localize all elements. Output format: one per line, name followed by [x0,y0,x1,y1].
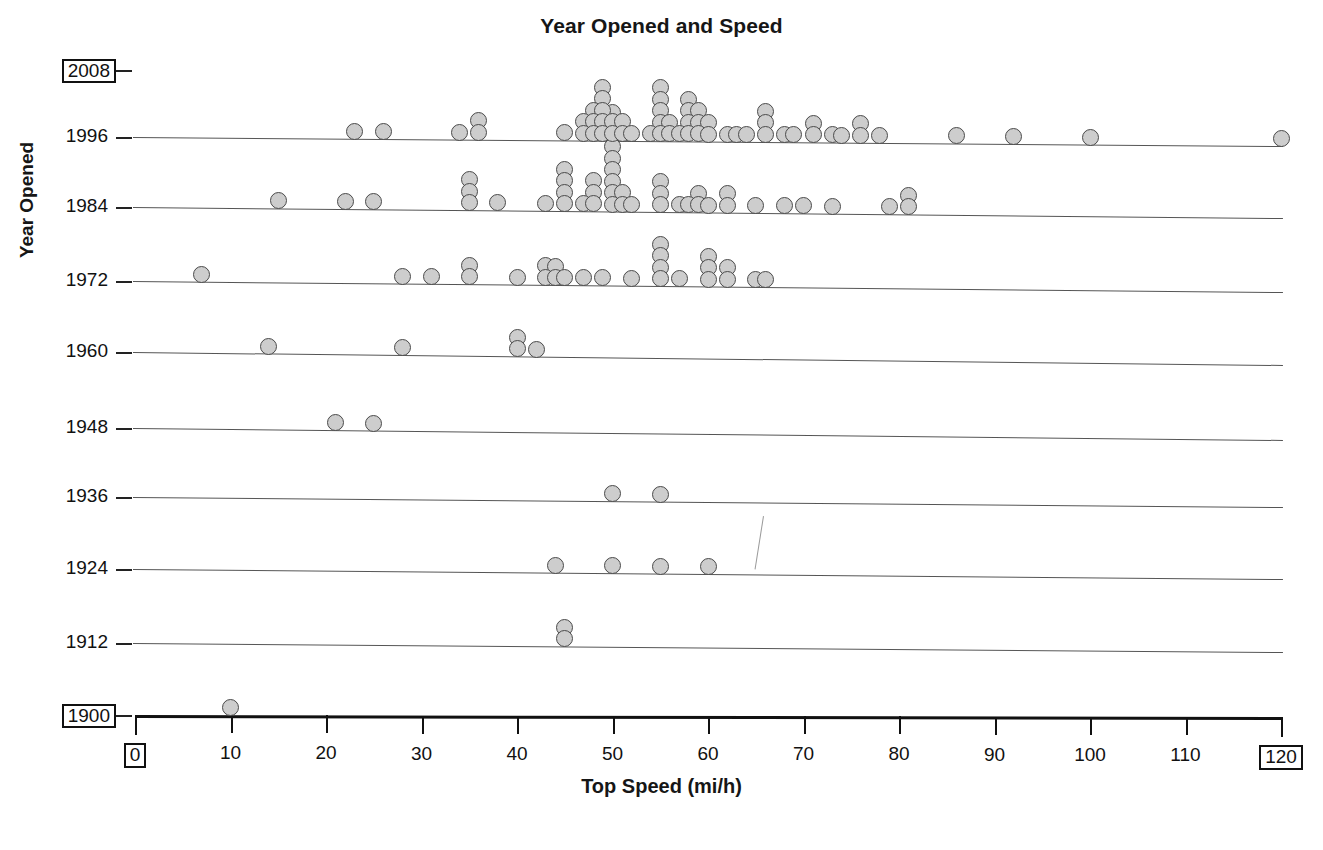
data-point [346,123,363,140]
data-point [719,271,736,288]
y-tick-mark-1924 [116,569,132,571]
data-point [871,127,888,144]
data-point [260,338,277,355]
y-tick-mark-2008 [116,70,132,72]
x-tick-text: 0 [124,743,147,768]
data-point [700,197,717,214]
x-tick-label-30: 30 [387,744,457,764]
x-tick-label-10: 10 [196,743,266,763]
x-tick-mark-30 [422,716,424,734]
x-tick-label-0[interactable]: 0 [100,743,170,768]
x-tick-mark-90 [995,717,997,735]
data-point [652,558,669,575]
x-tick-text: 90 [984,744,1005,765]
data-point [394,268,411,285]
y-tick-text: 2008 [62,59,116,83]
y-tick-label-1960: 1960 [12,341,108,360]
data-point [833,127,850,144]
data-point [795,197,812,214]
x-tick-mark-60 [708,716,710,734]
data-point [719,197,736,214]
y-tick-label-1996: 1996 [12,126,108,145]
x-tick-text: 80 [888,743,909,764]
y-tick-text: 1936 [66,485,108,506]
data-point [509,269,526,286]
x-tick-text: 120 [1259,745,1303,770]
data-point [824,198,841,215]
x-tick-label-120[interactable]: 120 [1246,745,1316,770]
data-point [1082,129,1099,146]
x-tick-mark-100 [1090,717,1092,735]
x-tick-mark-10 [231,715,233,733]
data-point [623,196,640,213]
row-baseline-1912 [133,643,1283,653]
x-axis-end-cap-right [1281,717,1283,737]
data-point [461,194,478,211]
y-tick-label-1972: 1972 [12,270,108,289]
x-tick-mark-20 [326,715,328,733]
data-point [547,557,564,574]
y-tick-mark-1936 [116,497,132,499]
x-tick-label-50: 50 [578,744,648,764]
y-tick-mark-1984 [116,207,132,209]
y-tick-mark-1912 [116,643,132,645]
y-tick-text: 1948 [66,416,108,437]
data-point [757,271,774,288]
y-tick-text: 1900 [62,704,116,728]
data-point [652,486,669,503]
data-point [327,414,344,431]
x-tick-text: 40 [506,743,527,764]
data-point [738,126,755,143]
chart-canvas: Year Opened and Speed Year Opened Top Sp… [0,0,1323,850]
y-tick-label-2008[interactable]: 2008 [20,59,116,83]
y-tick-mark-1900 [116,715,132,717]
x-axis-title: Top Speed (mi/h) [0,775,1323,798]
data-point [193,266,210,283]
y-tick-mark-1948 [116,428,132,430]
row-baseline-1948 [133,428,1283,441]
data-point [470,124,487,141]
x-tick-label-90: 90 [960,745,1030,765]
data-point [805,126,822,143]
y-tick-text: 1960 [66,340,108,361]
y-tick-label-1924: 1924 [12,558,108,577]
x-tick-text: 50 [602,743,623,764]
x-tick-mark-110 [1186,717,1188,735]
chart-title: Year Opened and Speed [0,14,1323,38]
data-point [489,194,506,211]
x-tick-text: 110 [1170,744,1200,765]
y-tick-text: 1912 [66,631,108,652]
data-point [652,196,669,213]
data-point [604,557,621,574]
x-tick-label-100: 100 [1055,745,1125,765]
data-point [365,193,382,210]
data-point [604,485,621,502]
data-point [785,126,802,143]
data-point [948,127,965,144]
y-tick-label-1936: 1936 [12,486,108,505]
x-tick-text: 20 [315,742,336,763]
data-point [556,269,573,286]
x-tick-label-80: 80 [864,744,934,764]
x-tick-text: 70 [793,743,814,764]
x-tick-text: 30 [411,743,432,764]
x-tick-label-70: 70 [769,744,839,764]
x-axis-end-cap-left [135,715,137,735]
data-point [757,126,774,143]
data-point [881,198,898,215]
data-point [365,415,382,432]
data-point [556,124,573,141]
data-point [394,339,411,356]
data-point [852,127,869,144]
y-tick-label-1948: 1948 [12,417,108,436]
x-tick-mark-50 [613,716,615,734]
x-tick-label-110: 110 [1151,745,1221,765]
data-point [1005,128,1022,145]
row-baseline-1936 [133,497,1283,508]
x-tick-mark-40 [517,716,519,734]
scan-artifact-line [755,516,764,569]
x-tick-label-60: 60 [673,744,743,764]
data-point [451,124,468,141]
y-tick-label-1900[interactable]: 1900 [20,704,116,728]
data-point [1273,130,1290,147]
